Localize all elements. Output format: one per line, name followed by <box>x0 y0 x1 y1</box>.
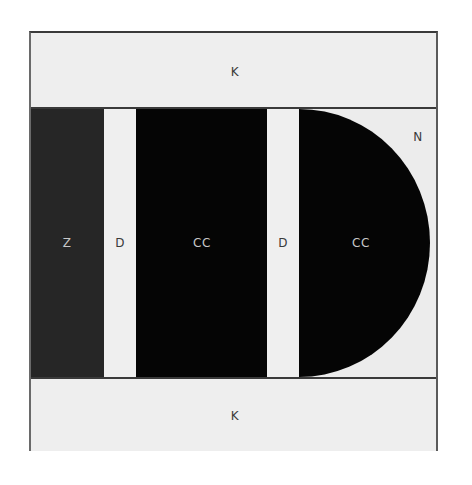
middle-row: N Z D CC D CC <box>31 109 436 377</box>
strip-1-label: D <box>115 236 125 250</box>
top-band-k: K <box>31 33 436 109</box>
strip-d-1: D <box>104 109 136 377</box>
corner-region-label: N <box>413 130 422 144</box>
strip-2-label: D <box>278 236 288 250</box>
diagram-frame: K N Z D CC D CC K <box>29 31 438 451</box>
bottom-band-label: K <box>231 409 239 423</box>
center-block-cc: CC <box>136 109 267 377</box>
strip-d-2: D <box>267 109 299 377</box>
left-block-z: Z <box>31 109 104 377</box>
top-band-label: K <box>231 65 239 79</box>
left-block-label: Z <box>63 236 72 250</box>
bottom-band-k: K <box>31 377 436 451</box>
center-block-label: CC <box>193 236 211 250</box>
half-disc-label: CC <box>352 236 370 250</box>
